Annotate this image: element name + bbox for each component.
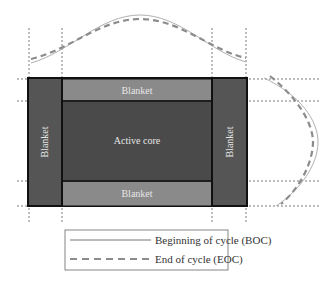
- boc-radial-profile: [264, 78, 318, 206]
- eoc-axial-profile: [31, 19, 246, 59]
- boc-axial-profile: [31, 15, 246, 63]
- active-core-label: Active core: [114, 135, 161, 146]
- blanket-left-label: Blanket: [39, 126, 50, 157]
- blanket-bottom-label: Blanket: [121, 188, 152, 199]
- blanket-top-label: Blanket: [121, 85, 152, 96]
- reactor-diagram: Blanket Blanket Active core Blanket Blan…: [0, 0, 335, 285]
- blanket-right-label: Blanket: [224, 126, 235, 157]
- legend: Beginning of cycle (BOC) End of cycle (E…: [65, 230, 272, 270]
- eoc-legend-label: End of cycle (EOC): [155, 253, 243, 266]
- boc-legend-label: Beginning of cycle (BOC): [155, 234, 272, 247]
